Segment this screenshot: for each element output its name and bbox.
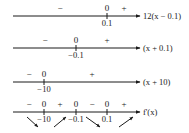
tick-label: −0.1 [68,114,83,124]
minus-sign: − [89,99,94,109]
zero-marker: 0 [42,99,47,109]
increasing-arrow-icon [119,117,133,127]
tick-label: 0.1 [102,114,113,124]
plus-sign: + [89,69,94,79]
minus-sign: − [26,69,31,79]
zero-marker: 0 [105,99,110,109]
row-label: (x + 0.1) [143,43,173,53]
plus-sign: + [121,99,126,109]
minus-sign: − [26,99,31,109]
minus-sign: − [42,35,47,45]
increasing-arrow-icon [54,117,66,127]
tick-label: −10 [37,84,50,94]
sign-row-row4: f'(x)−10−0.10.1−0+0−0+ [13,99,157,127]
minus-sign: − [57,3,62,13]
row-label: (x + 10) [143,77,171,87]
zero-marker: 0 [74,35,79,45]
sign-row-row3: (x + 10)−10−0+ [13,69,171,94]
plus-sign: + [57,99,62,109]
row-label: 12(x − 0.1) [143,11,181,21]
sign-chart: 12(x − 0.1)0.1−0+(x + 0.1)−0.1−0+(x + 10… [0,0,189,133]
tick-label: −0.1 [68,50,83,60]
sign-row-row2: (x + 0.1)−0.1−0+ [13,35,173,60]
decreasing-arrow-icon [27,117,38,127]
zero-marker: 0 [42,69,47,79]
sign-row-row1: 12(x − 0.1)0.1−0+ [13,3,181,28]
decreasing-arrow-icon [86,117,100,127]
tick-label: 0.1 [102,18,113,28]
row-label: f'(x) [143,107,157,117]
zero-marker: 0 [74,99,79,109]
plus-sign: + [104,35,109,45]
zero-marker: 0 [105,3,110,13]
tick-label: −10 [37,114,50,124]
plus-sign: + [121,3,126,13]
